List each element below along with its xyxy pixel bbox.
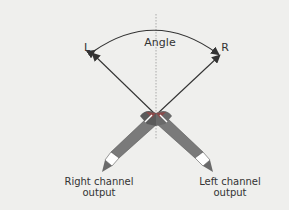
right-axis-arrow <box>156 56 219 115</box>
right-channel-output-label: Right channel output <box>44 176 154 198</box>
right-output-line1: Right channel <box>44 176 154 187</box>
right-output-line2: output <box>44 187 154 198</box>
angle-label: Angle <box>140 37 180 48</box>
left-axis-arrow <box>93 54 156 115</box>
left-channel-mic <box>157 118 213 172</box>
stereo-mic-diagram: Angle L R Right channel output Left chan… <box>0 0 289 210</box>
right-channel-mic <box>102 118 157 172</box>
right-label: R <box>219 42 231 53</box>
left-channel-output-label: Left channel output <box>190 176 270 198</box>
left-output-line2: output <box>190 187 270 198</box>
left-label: L <box>81 42 93 53</box>
left-output-line1: Left channel <box>190 176 270 187</box>
